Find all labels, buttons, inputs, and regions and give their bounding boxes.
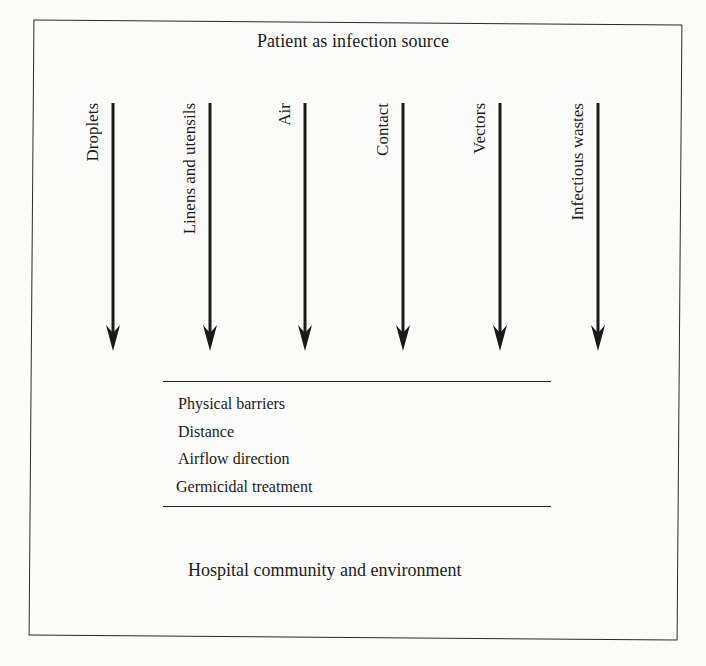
barrier-zone: Physical barriers Distance Airflow direc… <box>163 381 551 507</box>
route-label: Vectors <box>471 103 488 154</box>
down-arrow-icon <box>103 103 123 353</box>
route-label: Air <box>276 103 293 126</box>
barrier-list: Physical barriers Distance Airflow direc… <box>178 394 312 504</box>
source-label: Patient as infection source <box>0 31 706 52</box>
route-infectious-wastes: Infectious wastes <box>588 103 608 353</box>
down-arrow-icon <box>393 103 413 353</box>
route-air: Air <box>295 103 315 353</box>
down-arrow-icon <box>295 103 315 353</box>
route-contact: Contact <box>393 103 413 353</box>
barrier-item-distance: Distance <box>178 422 312 450</box>
destination-label: Hospital community and environment <box>188 560 461 581</box>
route-droplets: Droplets <box>103 103 123 353</box>
down-arrow-icon <box>490 103 510 353</box>
route-label: Droplets <box>84 103 101 162</box>
route-label: Contact <box>374 103 391 156</box>
barrier-item-physical-barriers: Physical barriers <box>178 394 312 422</box>
route-label: Infectious wastes <box>569 103 586 221</box>
route-label: Linens and utensils <box>181 103 198 234</box>
barrier-item-germicidal-treatment: Germicidal treatment <box>176 477 312 505</box>
barrier-item-airflow-direction: Airflow direction <box>178 449 312 477</box>
route-linens-and-utensils: Linens and utensils <box>200 103 220 353</box>
down-arrow-icon <box>588 103 608 353</box>
route-vectors: Vectors <box>490 103 510 353</box>
down-arrow-icon <box>200 103 220 353</box>
